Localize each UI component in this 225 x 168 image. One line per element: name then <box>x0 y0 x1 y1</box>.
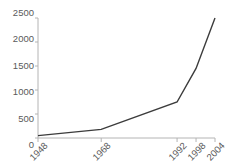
x-tick-label-1948: 1948 <box>27 140 50 163</box>
y-tick-label-2000: 2000 <box>13 33 34 44</box>
y-tick-label-500: 500 <box>18 112 34 123</box>
plot-svg <box>38 18 215 138</box>
x-tick-label-1992: 1992 <box>166 140 189 163</box>
data-series-line <box>38 18 215 136</box>
x-axis: 1948 1968 1992 1998 2004 <box>0 138 225 168</box>
y-tick-label-1000: 1000 <box>13 86 34 97</box>
line-chart-figure: States at the UN 0 500 1000 1500 2000 25… <box>0 0 225 168</box>
plot-area <box>38 18 215 138</box>
x-tick-label-1998: 1998 <box>185 140 208 163</box>
y-tick-label-1500: 1500 <box>13 59 34 70</box>
y-axis: 0 500 1000 1500 2000 2500 <box>0 12 34 144</box>
x-tick-label-1968: 1968 <box>90 140 113 163</box>
chart-title: States at the UN <box>8 0 101 3</box>
x-tick-label-2004: 2004 <box>204 140 225 163</box>
y-tick-label-2500: 2500 <box>13 7 34 18</box>
